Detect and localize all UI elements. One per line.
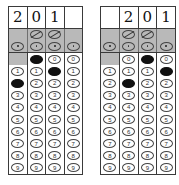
bubble-cell[interactable]: 4 <box>120 101 138 113</box>
bubble-empty[interactable]: 7 <box>48 139 61 148</box>
bubble-filled[interactable]: 2 <box>11 79 24 88</box>
bubble-cell[interactable]: 7 <box>9 138 27 150</box>
bubble-cell[interactable]: 7 <box>157 138 175 150</box>
bubble-empty[interactable]: 5 <box>103 115 116 124</box>
decimal-point-bubble-icon[interactable] <box>67 42 80 51</box>
bubble-cell[interactable]: 8 <box>120 150 138 162</box>
bubble-cell[interactable]: 6 <box>65 126 83 138</box>
bubble-empty[interactable]: 4 <box>103 103 116 112</box>
bubble-cell[interactable]: 0 <box>120 53 138 65</box>
decimal-point-bubble-icon[interactable] <box>48 42 61 51</box>
handwritten-digit-cell[interactable]: 0 <box>139 7 158 28</box>
bubble-cell[interactable]: 7 <box>101 138 119 150</box>
bubble-empty[interactable]: 4 <box>30 103 43 112</box>
bubble-cell[interactable]: 7 <box>65 138 83 150</box>
bubble-cell[interactable]: 2 <box>157 77 175 89</box>
bubble-cell[interactable]: 4 <box>28 101 46 113</box>
bubble-empty[interactable]: 9 <box>11 163 24 172</box>
bubble-empty[interactable]: 7 <box>141 139 154 148</box>
bubble-cell[interactable]: 2 <box>120 77 138 89</box>
bubble-empty[interactable]: 8 <box>160 151 173 160</box>
bubble-cell[interactable]: 9 <box>157 162 175 174</box>
handwritten-digit-cell[interactable]: 1 <box>46 7 65 28</box>
handwritten-digit-cell[interactable] <box>65 7 83 28</box>
decimal-point-cell[interactable] <box>9 40 28 52</box>
bubble-empty[interactable]: 9 <box>103 163 116 172</box>
fraction-bar-cell[interactable] <box>46 29 65 40</box>
bubble-empty[interactable]: 7 <box>122 139 135 148</box>
fraction-bar-bubble-icon[interactable] <box>122 30 135 39</box>
bubble-empty[interactable]: 6 <box>160 127 173 136</box>
bubble-empty[interactable]: 0 <box>160 55 173 64</box>
fraction-bar-cell[interactable] <box>120 29 139 40</box>
bubble-cell[interactable]: 6 <box>28 126 46 138</box>
bubble-empty[interactable]: 8 <box>141 151 154 160</box>
bubble-empty[interactable]: 6 <box>141 127 154 136</box>
bubble-cell[interactable]: 4 <box>9 101 27 113</box>
decimal-point-cell[interactable] <box>65 40 83 52</box>
bubble-empty[interactable]: 3 <box>141 91 154 100</box>
decimal-point-bubble-icon[interactable] <box>30 42 43 51</box>
bubble-empty[interactable]: 1 <box>11 67 24 76</box>
bubble-empty[interactable]: 6 <box>122 127 135 136</box>
bubble-cell[interactable]: 3 <box>139 89 157 101</box>
bubble-cell[interactable]: 4 <box>46 101 64 113</box>
bubble-empty[interactable]: 6 <box>48 127 61 136</box>
bubble-cell[interactable]: 8 <box>46 150 64 162</box>
bubble-empty[interactable]: 7 <box>103 139 116 148</box>
bubble-cell[interactable]: 1 <box>101 65 119 77</box>
bubble-empty[interactable]: 3 <box>30 91 43 100</box>
fraction-bar-bubble-icon[interactable] <box>48 30 61 39</box>
bubble-empty[interactable]: 4 <box>160 103 173 112</box>
bubble-cell[interactable]: 8 <box>139 150 157 162</box>
bubble-empty[interactable]: 9 <box>67 163 80 172</box>
bubble-cell[interactable]: 0 <box>65 53 83 65</box>
bubble-cell[interactable]: 0 <box>46 53 64 65</box>
bubble-empty[interactable]: 8 <box>11 151 24 160</box>
bubble-empty[interactable]: 3 <box>160 91 173 100</box>
decimal-point-cell[interactable] <box>46 40 65 52</box>
bubble-cell[interactable]: 2 <box>28 77 46 89</box>
bubble-cell[interactable]: 9 <box>101 162 119 174</box>
bubble-filled[interactable]: 2 <box>122 79 135 88</box>
bubble-filled[interactable]: 0 <box>141 55 154 64</box>
bubble-cell[interactable]: 4 <box>65 101 83 113</box>
bubble-cell[interactable]: 9 <box>28 162 46 174</box>
bubble-empty[interactable]: 0 <box>122 55 135 64</box>
bubble-cell[interactable]: 6 <box>9 126 27 138</box>
bubble-cell[interactable]: 6 <box>139 126 157 138</box>
decimal-point-bubble-icon[interactable] <box>103 42 116 51</box>
bubble-empty[interactable]: 7 <box>11 139 24 148</box>
bubble-cell[interactable]: 0 <box>28 53 46 65</box>
handwritten-digit-cell[interactable]: 0 <box>28 7 47 28</box>
handwritten-digit-cell[interactable] <box>101 7 120 28</box>
decimal-point-cell[interactable] <box>28 40 47 52</box>
bubble-cell[interactable]: 1 <box>65 65 83 77</box>
bubble-cell[interactable]: 5 <box>46 113 64 125</box>
bubble-empty[interactable]: 9 <box>122 163 135 172</box>
bubble-empty[interactable]: 3 <box>48 91 61 100</box>
bubble-empty[interactable]: 3 <box>67 91 80 100</box>
bubble-cell[interactable]: 4 <box>139 101 157 113</box>
bubble-cell[interactable]: 9 <box>139 162 157 174</box>
bubble-cell[interactable]: 2 <box>46 77 64 89</box>
bubble-cell[interactable]: 6 <box>157 126 175 138</box>
bubble-empty[interactable]: 2 <box>48 79 61 88</box>
bubble-cell[interactable]: 5 <box>28 113 46 125</box>
bubble-cell[interactable]: 1 <box>28 65 46 77</box>
bubble-empty[interactable]: 2 <box>103 79 116 88</box>
decimal-point-cell[interactable] <box>120 40 139 52</box>
bubble-cell[interactable]: 3 <box>157 89 175 101</box>
bubble-cell[interactable]: 8 <box>9 150 27 162</box>
handwritten-answer-row[interactable]: 201 <box>101 7 175 29</box>
bubble-cell[interactable]: 8 <box>157 150 175 162</box>
bubble-empty[interactable]: 2 <box>160 79 173 88</box>
bubble-empty[interactable]: 8 <box>103 151 116 160</box>
decimal-point-cell[interactable] <box>101 40 120 52</box>
bubble-cell[interactable]: 0 <box>157 53 175 65</box>
bubble-empty[interactable]: 9 <box>141 163 154 172</box>
bubble-cell[interactable]: 7 <box>46 138 64 150</box>
bubble-empty[interactable]: 6 <box>30 127 43 136</box>
bubble-cell[interactable]: 3 <box>120 89 138 101</box>
bubble-cell[interactable]: 6 <box>46 126 64 138</box>
